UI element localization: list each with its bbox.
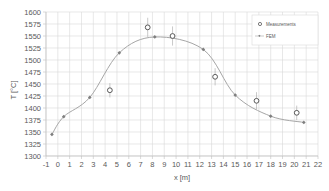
x-tick-label: 20 [290, 160, 298, 169]
x-tick-label: 14 [219, 160, 227, 169]
y-tick-label: 1375 [24, 116, 41, 125]
measurement-circle-marker-icon [213, 74, 218, 79]
legend-box [252, 15, 318, 45]
x-axis-ticks: -1012345678910111213141516171819202122 [43, 160, 323, 169]
y-tick-label: 1600 [24, 8, 41, 17]
x-tick-label: -1 [43, 160, 50, 169]
y-axis-label: T [°C] [9, 80, 18, 99]
x-tick-label: 16 [243, 160, 251, 169]
y-axis-ticks: 1300132513501375140014251450147515001525… [24, 8, 41, 161]
y-tick-label: 1400 [24, 104, 41, 113]
fem-diamond-marker-icon [153, 35, 157, 39]
x-tick-label: 1 [68, 160, 72, 169]
legend-measurements-label: Measurements [266, 22, 297, 27]
x-tick-label: 18 [267, 160, 275, 169]
y-tick-label: 1550 [24, 32, 41, 41]
y-tick-label: 1325 [24, 140, 41, 149]
x-axis-label: x [m] [174, 173, 190, 182]
y-tick-label: 1525 [24, 44, 41, 53]
legend: Measurements FEM [252, 15, 318, 45]
x-tick-label: 10 [172, 160, 180, 169]
x-tick-label: 11 [184, 160, 192, 169]
measurement-circle-marker-icon [294, 110, 299, 115]
measurement-circle-marker-icon [145, 25, 150, 30]
x-tick-label: 8 [150, 160, 154, 169]
y-tick-label: 1575 [24, 20, 41, 29]
measurement-circle-marker-icon [254, 98, 259, 103]
x-tick-label: 17 [255, 160, 263, 169]
x-tick-label: 15 [231, 160, 239, 169]
x-tick-label: 0 [56, 160, 60, 169]
x-tick-label: 19 [278, 160, 286, 169]
y-tick-label: 1500 [24, 56, 41, 65]
y-tick-label: 1450 [24, 80, 41, 89]
x-tick-label: 2 [79, 160, 83, 169]
fem-diamond-marker-icon [269, 114, 273, 118]
x-tick-label: 13 [207, 160, 215, 169]
measurement-circle-marker-icon [170, 34, 175, 39]
x-tick-label: 6 [127, 160, 131, 169]
legend-fem-label: FEM [266, 34, 276, 39]
x-tick-label: 4 [103, 160, 107, 169]
fem-diamond-marker-icon [302, 121, 306, 125]
x-tick-label: 12 [196, 160, 204, 169]
y-tick-label: 1475 [24, 68, 41, 77]
y-tick-label: 1300 [24, 152, 41, 161]
fem-series [50, 35, 306, 136]
x-tick-label: 22 [314, 160, 322, 169]
x-tick-label: 3 [91, 160, 95, 169]
measurements-legend-marker-icon [258, 22, 261, 25]
measurement-circle-marker-icon [107, 88, 112, 93]
x-tick-label: 21 [302, 160, 310, 169]
x-tick-label: 7 [139, 160, 143, 169]
x-tick-label: 9 [162, 160, 166, 169]
y-tick-label: 1350 [24, 128, 41, 137]
chart: 1300132513501375140014251450147515001525… [0, 0, 329, 191]
x-tick-label: 5 [115, 160, 119, 169]
y-tick-label: 1425 [24, 92, 41, 101]
